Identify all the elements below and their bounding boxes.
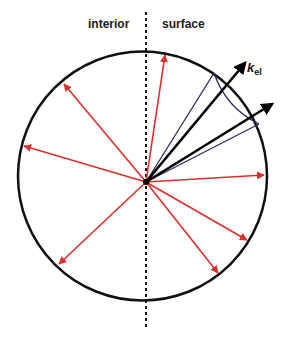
- red-arrow-right: [146, 175, 264, 182]
- red-arrow-down-right: [146, 182, 218, 273]
- interior-label: interior: [88, 17, 130, 31]
- second-black-arrow: [146, 104, 272, 182]
- red-arrows: [24, 55, 264, 273]
- red-arrow-upper-left: [64, 84, 146, 182]
- sphere-circle: [18, 52, 267, 301]
- k-el-label: kel: [247, 60, 262, 77]
- red-arrow-left: [24, 146, 146, 182]
- red-arrow-lower-right: [146, 182, 247, 240]
- diagram-canvas: interior surface kel: [0, 0, 285, 342]
- surface-label: surface: [162, 17, 205, 31]
- red-arrow-lower-left: [59, 182, 146, 264]
- origin-point: [143, 179, 149, 185]
- escape-cone: [146, 73, 259, 182]
